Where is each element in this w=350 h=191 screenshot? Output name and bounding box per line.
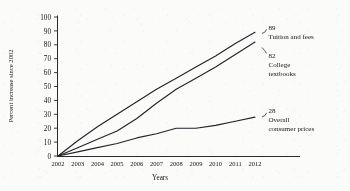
y-tick-label: 30 — [44, 111, 52, 119]
y-tick-label: 20 — [44, 125, 52, 133]
series-line-overall-consumer-prices — [58, 117, 255, 156]
y-tick-label: 10 — [44, 139, 52, 147]
callout-tuition-and-fees: 89 Tuition and fees — [269, 24, 315, 42]
y-axis-title: Percent increase since 2002 — [7, 49, 14, 122]
x-axis-title: Years — [152, 174, 168, 182]
line-chart: 100 90 80 70 60 50 40 30 20 10 0 Percent… — [0, 0, 350, 191]
x-tick-label: 2009 — [189, 160, 202, 167]
leader-line-textbooks — [262, 48, 267, 54]
y-tick-label: 100 — [40, 14, 51, 22]
x-tick-label: 2003 — [71, 160, 84, 167]
y-tick-label: 60 — [44, 69, 52, 77]
x-tick-label: 2006 — [130, 160, 144, 167]
callout-value: 28 — [269, 107, 277, 115]
series-line-tuition-and-fees — [58, 32, 255, 156]
x-tick-label: 2011 — [229, 160, 242, 167]
callout-value: 82 — [269, 52, 277, 60]
callout-label: Tuition and fees — [269, 33, 315, 41]
y-tick-label: 70 — [44, 55, 52, 63]
callout-label: textbooks — [269, 70, 296, 78]
callout-overall-consumer-prices: 28 Overall consumer prices — [269, 107, 315, 134]
x-tick-label: 2005 — [111, 160, 124, 167]
y-tick-label: 90 — [44, 28, 52, 36]
x-tick-label: 2004 — [91, 160, 105, 167]
callout-value: 89 — [269, 24, 277, 32]
leader-line-tuition — [262, 29, 267, 33]
callout-label: consumer prices — [269, 125, 315, 133]
leader-line-consumer — [262, 113, 267, 117]
x-tick-label: 2007 — [150, 160, 164, 167]
x-tick-label: 2008 — [170, 160, 183, 167]
x-tick-label: 2010 — [209, 160, 222, 167]
y-tick-label: 80 — [44, 41, 52, 49]
series-line-college-textbooks — [58, 42, 255, 156]
y-tick-label: 50 — [44, 83, 52, 91]
x-tick-label: 2002 — [52, 160, 65, 167]
y-axis-tick-labels: 100 90 80 70 60 50 40 30 20 10 0 — [40, 14, 51, 161]
callout-college-textbooks: 82 College textbooks — [269, 52, 296, 79]
callout-label: Overall — [269, 116, 290, 124]
chart-canvas: 100 90 80 70 60 50 40 30 20 10 0 Percent… — [0, 0, 350, 191]
y-tick-label: 40 — [44, 97, 52, 105]
callout-label: College — [269, 61, 291, 69]
x-tick-label: 2012 — [249, 160, 262, 167]
x-axis-tick-labels: 2002 2003 2004 2005 2006 2007 2008 2009 … — [52, 160, 262, 167]
